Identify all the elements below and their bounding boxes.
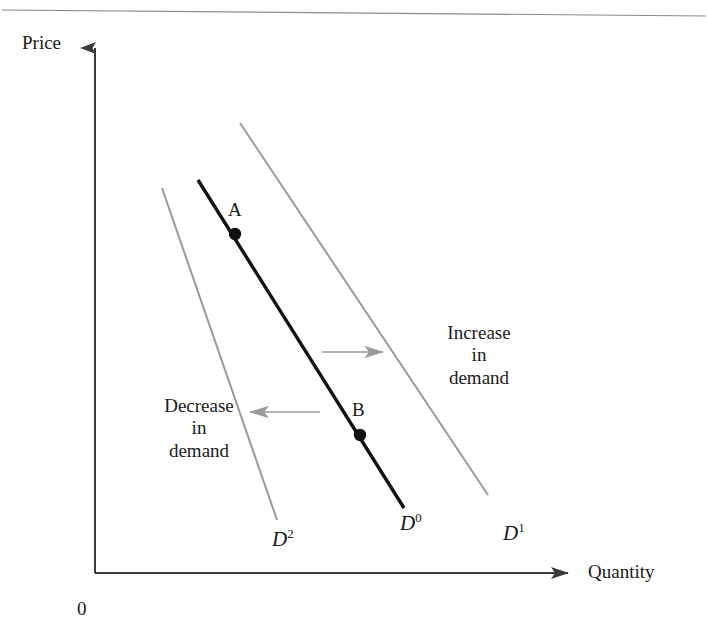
y-axis-label: Price	[22, 32, 61, 54]
decrease-annotation-line-3: demand	[128, 440, 270, 462]
x-axis-label: Quantity	[588, 561, 655, 583]
page-top-rule	[2, 10, 706, 16]
point-a-label: A	[228, 199, 242, 221]
curve-label-d2-superscript: 2	[287, 526, 294, 541]
figure-vector-layer	[0, 0, 707, 630]
curve-label-d0: D0	[400, 511, 422, 536]
increase-annotation-line-3: demand	[408, 367, 550, 389]
curve-label-d0-superscript: 0	[415, 510, 422, 525]
point-b-label: B	[352, 399, 365, 421]
point-b-marker	[354, 429, 366, 441]
curve-label-d1: D1	[503, 521, 525, 546]
curve-label-d0-base: D	[400, 511, 415, 535]
curve-label-d2-base: D	[272, 527, 287, 551]
decrease-annotation-line-1: Decrease	[128, 395, 270, 417]
decrease-annotation-line-2: in	[128, 417, 270, 439]
curve-label-d2: D2	[272, 527, 294, 552]
curve-label-d1-base: D	[503, 521, 518, 545]
demand-curve-d2	[162, 188, 277, 520]
decrease-in-demand-annotation: Decrease in demand	[128, 395, 270, 462]
point-a-marker	[229, 228, 241, 240]
curve-label-d1-superscript: 1	[518, 520, 525, 535]
increase-in-demand-annotation: Increase in demand	[408, 322, 550, 389]
increase-annotation-line-2: in	[408, 344, 550, 366]
demand-shift-figure: Price Quantity 0 A B D0 D1 D2 Increase i…	[0, 0, 707, 630]
origin-label: 0	[77, 598, 87, 620]
increase-annotation-line-1: Increase	[408, 322, 550, 344]
